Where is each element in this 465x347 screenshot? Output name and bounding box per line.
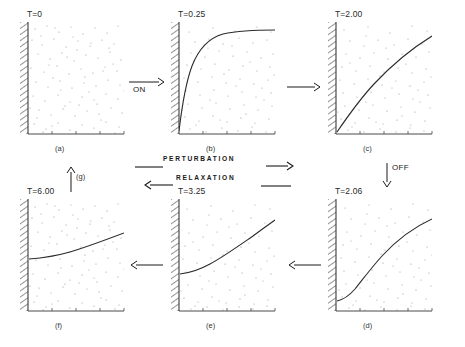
arrow-right-icon — [286, 80, 322, 94]
flow-arrow-left-icon — [143, 180, 173, 190]
panel-d-plot — [322, 197, 434, 319]
flow-arrow-right-icon — [266, 161, 294, 171]
panel-c-time-label: T=2.00 — [335, 9, 362, 19]
perturbation-label: PERTURBATION — [163, 155, 235, 162]
connector-b-to-c — [286, 80, 322, 98]
panel-e-label: (e) — [206, 321, 215, 330]
panel-a-time-label: T=0 — [27, 9, 42, 19]
panel-a — [14, 20, 126, 142]
panel-c — [322, 20, 434, 142]
panel-d-label: (d) — [363, 321, 372, 330]
arrow-left-icon-2 — [130, 258, 164, 272]
panel-f — [14, 197, 126, 319]
panel-f-plot — [14, 197, 126, 319]
perturbation-arrow-right — [266, 157, 294, 175]
panel-f-time-label: T=6.00 — [27, 186, 54, 196]
panel-c-plot — [322, 20, 434, 142]
panel-e-time-label: T=3.25 — [178, 186, 205, 196]
panel-f-label: (f) — [55, 321, 62, 330]
relaxation-line-right — [261, 176, 291, 194]
figure-canvas: T=0 (a) — [0, 0, 465, 347]
panel-b-time-label: T=0.25 — [178, 9, 205, 19]
flow-line-icon-1 — [135, 163, 163, 171]
panel-e-plot — [165, 197, 277, 319]
panel-b-plot — [165, 20, 277, 142]
wall-hatch-d — [328, 199, 336, 311]
connector-off-label: OFF — [392, 163, 409, 172]
panel-c-label: (c) — [363, 144, 372, 153]
wall-hatch-a — [20, 22, 28, 134]
wall-hatch-e — [171, 199, 179, 311]
panel-d-time-label: T=2.06 — [335, 186, 362, 196]
perturbation-line-left — [135, 157, 163, 175]
panel-d — [322, 197, 434, 319]
connector-e-to-f — [130, 258, 164, 276]
connector-on-label: ON — [133, 85, 146, 94]
flow-line-icon-2 — [261, 182, 291, 190]
panel-a-label: (a) — [55, 144, 64, 153]
wall-hatch-f — [20, 199, 28, 311]
panel-a-plot — [14, 20, 126, 142]
wall-hatch-c — [328, 22, 336, 134]
wall-hatch-b — [171, 22, 179, 134]
relaxation-label: RELAXATION — [176, 174, 235, 181]
cycle-return-label: (g) — [76, 172, 85, 181]
panel-b — [165, 20, 277, 142]
arrow-left-icon-1 — [288, 258, 322, 272]
panel-b-label: (b) — [206, 144, 215, 153]
connector-d-to-e — [288, 258, 322, 276]
relaxation-arrow-left — [143, 176, 173, 194]
panel-e — [165, 197, 277, 319]
